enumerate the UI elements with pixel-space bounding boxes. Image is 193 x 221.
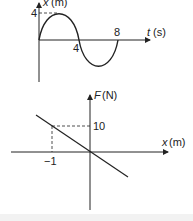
x-tick-4: 4: [73, 42, 79, 54]
x-tick-neg1: −1: [44, 155, 57, 167]
x-axis-unit: (m): [169, 136, 186, 148]
x-tick-8: 8: [114, 26, 120, 38]
f-axis-var: F: [94, 89, 102, 101]
t-axis-unit: (s): [153, 26, 166, 38]
footer-strip: [0, 214, 193, 221]
physics-diagram: 4 4 8 x (m) t (s) 10 −1 F (N) x (m): [0, 0, 193, 221]
y-axis-var: x: [42, 0, 49, 8]
force-displacement-graph: 10 −1 F (N) x (m): [11, 89, 186, 210]
force-line: [36, 115, 128, 177]
f-axis-unit: (N): [102, 89, 117, 101]
t-axis-var: t: [147, 26, 151, 38]
f-tick-10: 10: [93, 120, 105, 132]
displacement-time-graph: 4 4 8 x (m) t (s): [31, 0, 166, 82]
x-axis-var: x: [161, 136, 168, 148]
y-tick-4: 4: [31, 7, 37, 19]
y-axis-unit: (m): [51, 0, 68, 8]
